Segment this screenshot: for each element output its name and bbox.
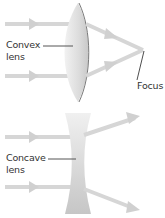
concave-label-line2: lens (6, 164, 46, 176)
concave-incoming-ray-top (5, 131, 76, 143)
lens-diagram (0, 0, 165, 218)
convex-label-line2: lens (6, 51, 40, 63)
concave-lens (65, 113, 91, 214)
focus-label: Focus (137, 80, 163, 92)
concave-label: Concave lens (6, 152, 46, 176)
convex-label-line1: Convex (6, 39, 40, 51)
convex-incoming-ray-top (5, 18, 74, 30)
concave-refracted-ray-bottom (84, 189, 140, 213)
convex-label: Convex lens (6, 39, 40, 63)
concave-label-line1: Concave (6, 152, 46, 164)
convex-refracted-ray-bottom (86, 50, 143, 76)
concave-refracted-ray-top (84, 112, 140, 135)
convex-refracted-ray-top (86, 24, 143, 50)
focus-pointer (137, 51, 144, 80)
convex-incoming-ray-bottom (5, 70, 74, 82)
concave-incoming-ray-bottom (5, 181, 76, 193)
